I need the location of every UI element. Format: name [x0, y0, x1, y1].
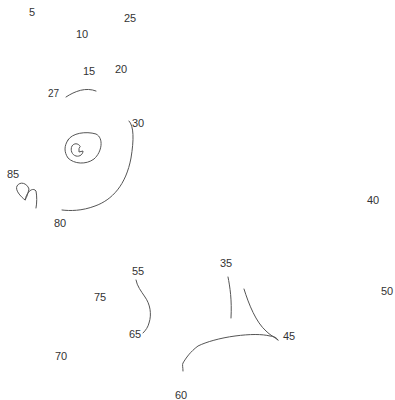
dot-label-45: 45 [283, 331, 295, 342]
dot-label-55: 55 [132, 266, 144, 277]
connect-the-dots-canvas: 5 25 10 15 20 27 30 85 40 80 35 55 50 75… [0, 0, 395, 400]
dot-label-30: 30 [132, 118, 144, 129]
stroke-curve-45-60 [183, 335, 278, 372]
stroke-loop-85 [17, 183, 37, 208]
dot-label-27: 27 [48, 89, 59, 99]
dot-label-70: 70 [55, 351, 67, 362]
partial-drawing-strokes [0, 0, 395, 400]
stroke-line-35 [228, 277, 231, 318]
dot-label-10: 10 [76, 29, 88, 40]
dot-label-75: 75 [94, 292, 106, 303]
stroke-arc-27 [66, 89, 96, 97]
stroke-curve-55-65 [136, 280, 150, 333]
stroke-eye-inner [71, 144, 83, 156]
dot-label-40: 40 [367, 195, 379, 206]
dot-label-80: 80 [54, 218, 66, 229]
dot-label-25: 25 [124, 13, 136, 24]
dot-label-20: 20 [115, 64, 127, 75]
dot-label-60: 60 [175, 390, 187, 400]
dot-label-5: 5 [29, 7, 35, 18]
dot-label-35: 35 [220, 258, 232, 269]
dot-label-85: 85 [7, 169, 19, 180]
dot-label-65: 65 [129, 329, 141, 340]
stroke-eye-outer [65, 133, 101, 163]
dot-label-15: 15 [83, 66, 95, 77]
stroke-line-to-45 [244, 289, 278, 340]
dot-label-50: 50 [381, 286, 393, 297]
